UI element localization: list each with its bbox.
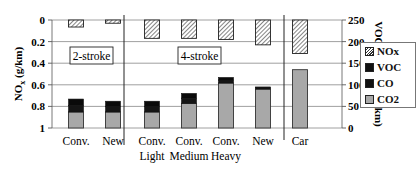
nox-bar — [219, 20, 234, 39]
category-label: New — [102, 135, 124, 147]
right-tick-label: 250 — [348, 14, 365, 26]
nox-bar — [145, 20, 160, 38]
left-tick-label: 1 — [40, 122, 46, 134]
emissions-chart: 02500.22000.41500.61000.85010Conv.NewCon… — [0, 0, 420, 169]
co-bar — [106, 106, 121, 112]
two-stroke-label: 2-stroke — [73, 50, 111, 62]
category-label: Conv. — [138, 135, 165, 147]
co-bar — [219, 80, 234, 83]
voc-bar — [106, 101, 121, 106]
left-tick-label: 0.4 — [31, 57, 45, 69]
co2-bar — [69, 112, 84, 128]
co-bar — [182, 98, 197, 103]
co2-bar — [182, 103, 197, 128]
left-tick-label: 0.2 — [31, 36, 45, 48]
category-sublabel: Heavy — [211, 150, 241, 163]
four-stroke-label: 4-stroke — [181, 50, 219, 62]
right-tick-label: 50 — [348, 100, 360, 112]
voc-bar — [256, 87, 271, 88]
black-swatch-icon — [365, 63, 374, 72]
legend-item-voc: VOC — [361, 59, 415, 75]
category-sublabel: Light — [140, 150, 166, 163]
category-label: Conv. — [175, 135, 202, 147]
co2-bar — [219, 83, 234, 128]
chart-legend: NOx VOC CO CO2 — [360, 42, 416, 108]
legend-item-co: CO — [361, 75, 415, 91]
left-axis-title: NOx (g/km) — [12, 46, 27, 101]
category-label: Conv. — [62, 135, 89, 147]
legend-item-nox: NOx — [361, 43, 415, 59]
nox-bar — [256, 20, 271, 45]
voc-bar — [219, 77, 234, 80]
co-bar — [145, 106, 160, 112]
voc-bar — [145, 101, 160, 106]
co2-bar — [256, 89, 271, 128]
nox-bar — [182, 20, 197, 38]
category-label: Car — [292, 135, 309, 147]
nox-bar — [69, 20, 84, 27]
legend-item-co2: CO2 — [361, 91, 415, 107]
co2-bar — [145, 112, 160, 128]
nox-bar — [293, 20, 308, 53]
right-tick-label: 0 — [348, 122, 354, 134]
left-tick-label: 0.8 — [31, 100, 45, 112]
co2-bar — [106, 112, 121, 128]
co2-bar — [293, 70, 308, 128]
black-swatch-icon — [365, 79, 374, 88]
voc-bar — [182, 93, 197, 98]
left-tick-label: 0.6 — [31, 79, 45, 91]
voc-bar — [69, 99, 84, 105]
category-label: Conv. — [212, 135, 239, 147]
gray-swatch-icon — [365, 95, 374, 104]
left-tick-label: 0 — [40, 14, 46, 26]
co-bar — [69, 106, 84, 112]
category-sublabel: Medium — [170, 150, 209, 162]
nox-bar — [106, 20, 121, 23]
hatched-swatch-icon — [365, 47, 374, 56]
category-label: New — [252, 135, 274, 147]
